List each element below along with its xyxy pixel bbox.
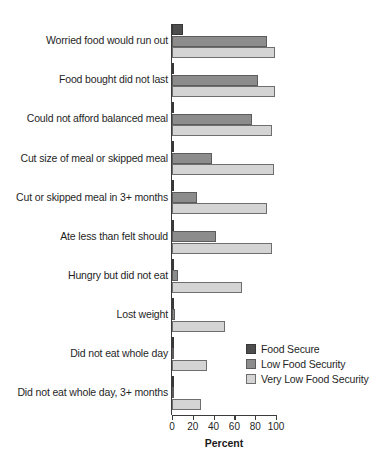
bar (172, 102, 174, 113)
x-tick (214, 415, 215, 420)
bar-group (172, 141, 276, 180)
bar (172, 376, 174, 387)
x-tick (276, 415, 277, 420)
bar-group (172, 220, 276, 259)
bar (172, 220, 174, 231)
legend-item-low-food-security: Low Food Security (246, 357, 369, 371)
chart-legend: Food Secure Low Food Security Very Low F… (246, 342, 369, 387)
x-tick-label: 100 (268, 421, 285, 432)
bar (172, 47, 275, 58)
x-tick (255, 415, 256, 420)
bar (172, 86, 275, 97)
x-tick (172, 415, 173, 420)
category-label: Lost weight (0, 308, 168, 320)
bar (172, 24, 183, 35)
x-axis-line (172, 415, 276, 416)
bar (172, 270, 178, 281)
category-label: Did not eat whole day, 3+ months (0, 386, 168, 398)
bar (172, 63, 174, 74)
x-tick (234, 415, 235, 420)
bar (172, 36, 267, 47)
bar (172, 141, 174, 152)
bar (172, 231, 216, 242)
bar (172, 203, 267, 214)
bar-chart: 020406080100 Percent Food Secure Low Foo… (0, 0, 391, 471)
legend-swatch-icon-low-food-security (246, 359, 256, 369)
legend-item-very-low-food-security: Very Low Food Security (246, 372, 369, 386)
bar-group (172, 102, 276, 141)
bar (172, 360, 207, 371)
category-label: Cut size of meal or skipped meal (0, 152, 168, 164)
legend-swatch-icon-very-low-food-security (246, 374, 256, 384)
legend-swatch-icon-food-secure (246, 344, 256, 354)
bar (172, 75, 258, 86)
bar (172, 321, 225, 332)
legend-label-low-food-security: Low Food Security (261, 358, 345, 370)
bar (172, 243, 272, 254)
bar (172, 348, 174, 359)
bar (172, 387, 174, 398)
bar (172, 125, 272, 136)
x-tick-label: 40 (208, 421, 219, 432)
bar-group (172, 24, 276, 63)
x-tick-label: 80 (250, 421, 261, 432)
bar (172, 282, 242, 293)
legend-item-food-secure: Food Secure (246, 342, 369, 356)
legend-label-food-secure: Food Secure (261, 343, 319, 355)
category-label: Did not eat whole day (0, 347, 168, 359)
bar-group (172, 63, 276, 102)
bar (172, 259, 174, 270)
category-label: Food bought did not last (0, 73, 168, 85)
bar (172, 180, 174, 191)
x-tick-label: 20 (187, 421, 198, 432)
bar (172, 164, 274, 175)
bar (172, 192, 197, 203)
legend-label-very-low-food-security: Very Low Food Security (261, 373, 369, 385)
category-label: Hungry but did not eat (0, 269, 168, 281)
x-tick (193, 415, 194, 420)
category-label: Worried food would run out (0, 34, 168, 46)
bar (172, 337, 174, 348)
bar-group (172, 180, 276, 219)
x-tick-label: 0 (169, 421, 175, 432)
bar (172, 298, 174, 309)
x-tick-label: 60 (229, 421, 240, 432)
category-label: Cut or skipped meal in 3+ months (0, 191, 168, 203)
bar (172, 309, 175, 320)
bar-group (172, 259, 276, 298)
x-axis-title: Percent (172, 437, 276, 449)
category-label: Could not afford balanced meal (0, 112, 168, 124)
bar (172, 399, 201, 410)
bar-group (172, 298, 276, 337)
bar (172, 153, 212, 164)
category-label: Ate less than felt should (0, 230, 168, 242)
bar (172, 114, 252, 125)
